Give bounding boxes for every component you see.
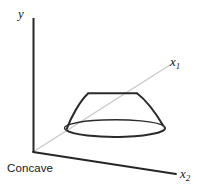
y-axis-label-text: y — [18, 6, 24, 21]
x1-axis-label-text: x — [170, 54, 176, 69]
frustum-base-back-arc — [64, 120, 164, 130]
x2-axis-label: x2 — [180, 167, 190, 180]
x2-axis-label-text: x — [180, 166, 186, 181]
frustum-base-front-arc — [66, 127, 165, 137]
x2-axis-line — [33, 152, 176, 174]
concave-function-diagram: y x1 x2 Concave — [0, 0, 201, 194]
x1-axis-label-subscript: 1 — [176, 61, 181, 71]
y-axis-label: y — [18, 7, 24, 20]
x2-axis-label-subscript: 2 — [186, 173, 191, 183]
figure-caption: Concave — [7, 163, 53, 175]
x1-axis-label: x1 — [170, 55, 180, 68]
